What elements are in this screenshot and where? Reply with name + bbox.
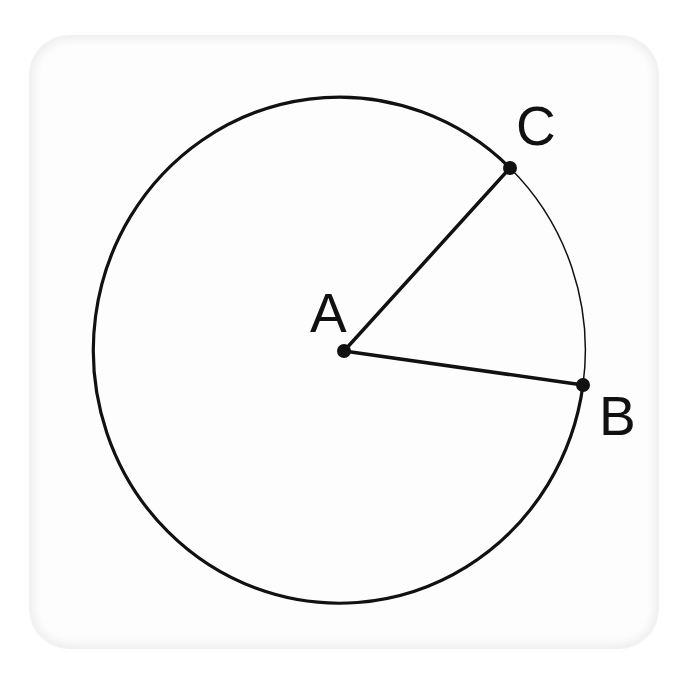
minor-arc-CB [510,168,585,385]
circle-diagram: A B C [0,0,693,686]
point-a-dot [337,344,351,358]
point-a-label: A [310,282,347,344]
point-b-label: B [599,385,636,447]
point-b-dot [576,378,590,392]
radius-AB [344,351,583,385]
point-c-label: C [516,95,556,157]
point-c-dot [503,161,517,175]
radius-AC [344,168,510,351]
